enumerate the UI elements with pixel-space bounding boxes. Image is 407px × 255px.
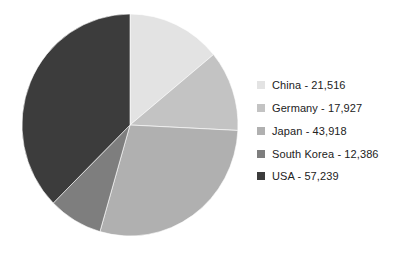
legend-swatch-icon (257, 127, 265, 135)
chart-legend: China - 21,516Germany - 17,927Japan - 43… (257, 74, 402, 188)
legend-item-label: South Korea - 12,386 (272, 148, 379, 160)
legend-swatch-icon (257, 172, 265, 180)
legend-swatch-icon (257, 104, 265, 112)
pie-graphic (21, 14, 239, 236)
legend-swatch-icon (257, 81, 265, 89)
legend-item[interactable]: Germany - 17,927 (257, 97, 402, 120)
legend-item[interactable]: Japan - 43,918 (257, 120, 402, 143)
legend-item-label: Germany - 17,927 (272, 102, 362, 114)
legend-item[interactable]: China - 21,516 (257, 74, 402, 97)
legend-item[interactable]: South Korea - 12,386 (257, 142, 402, 165)
pie-slice-group (22, 14, 238, 236)
pie-svg (21, 14, 239, 236)
legend-item-label: Japan - 43,918 (272, 125, 347, 137)
legend-item-label: China - 21,516 (272, 79, 346, 91)
pie-chart: China - 21,516Germany - 17,927Japan - 43… (0, 0, 407, 255)
legend-item-label: USA - 57,239 (272, 170, 339, 182)
legend-item[interactable]: USA - 57,239 (257, 165, 402, 188)
legend-swatch-icon (257, 150, 265, 158)
